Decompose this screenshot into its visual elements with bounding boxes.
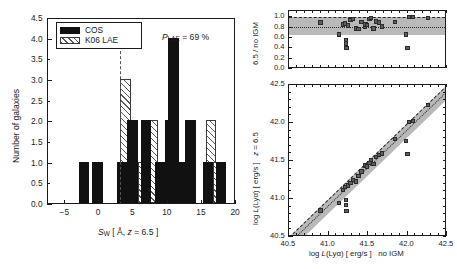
- histogram-xlabel: SW [ Å, z = 6.5 ]: [98, 228, 158, 238]
- ratio-data-point: [405, 46, 409, 50]
- p-lae-subscript: LAE: [168, 35, 180, 42]
- luminosity-xtick-top: [375, 84, 376, 87]
- luminosity-ytick-minor: [288, 206, 291, 207]
- ratio-xtick-top: [391, 10, 392, 13]
- luminosity-data-point: [344, 209, 348, 213]
- luminosity-ytick-major: [288, 84, 293, 85]
- histogram-xtick: [167, 200, 168, 204]
- ratio-xtick-top: [430, 10, 431, 13]
- luminosity-xtick: [335, 233, 336, 236]
- luminosity-ytick-right: [443, 130, 446, 131]
- histogram-yticklabel: 4.5: [31, 14, 43, 22]
- histogram-yticklabel: 3.5: [31, 55, 43, 63]
- luminosity-data-point: [337, 201, 341, 205]
- ratio-yticklabel: 0.4: [274, 43, 285, 51]
- luminosity-xtick-top: [438, 84, 439, 87]
- luminosity-ytick-right: [443, 122, 446, 123]
- ratio-yticklabel: 0.0: [274, 64, 285, 72]
- luminosity-ytick-minor: [288, 213, 291, 214]
- ratio-ytick: [288, 27, 292, 28]
- histogram-yticklabel: 2.0: [31, 117, 43, 125]
- luminosity-xtick-top: [407, 84, 408, 87]
- luminosity-yticklabel: 40.5: [270, 232, 285, 240]
- histogram-yticklabel: 1.0: [31, 159, 43, 167]
- luminosity-data-point: [344, 203, 348, 207]
- luminosity-ytick-minor: [288, 130, 291, 131]
- luminosity-ytick-right: [443, 221, 446, 222]
- luminosity-data-point: [426, 103, 430, 107]
- histogram-ytick: [47, 142, 50, 143]
- histogram-threshold-line: [120, 31, 121, 204]
- luminosity-ytick-minor: [288, 228, 291, 229]
- luminosity-ytick-right: [443, 92, 446, 93]
- ratio-data-point: [356, 27, 360, 31]
- histogram-bar-cos: [185, 120, 195, 203]
- histogram-xticklabel: −5: [60, 208, 69, 216]
- ratio-xtick-top: [414, 10, 415, 13]
- luminosity-data-point: [380, 151, 384, 155]
- luminosity-xtick: [296, 233, 297, 236]
- histogram-ytick: [47, 183, 50, 184]
- luminosity-xtick-top: [383, 84, 384, 87]
- ratio-yticklabel: 0.8: [274, 23, 285, 31]
- ratio-xtick-top: [399, 10, 400, 13]
- ratio-xtick: [430, 65, 431, 68]
- ratio-xtick-top: [375, 10, 376, 13]
- luminosity-ytick-major: [288, 122, 293, 123]
- luminosity-xtick-top: [304, 84, 305, 87]
- histogram-xticklabel: 10: [162, 208, 171, 216]
- luminosity-xtick: [351, 233, 352, 236]
- ratio-data-point: [393, 20, 397, 24]
- luminosity-xtick-top: [446, 84, 447, 87]
- ratio-xtick: [320, 65, 321, 68]
- histogram-xtick: [201, 200, 202, 204]
- luminosity-ytick-minor: [288, 175, 291, 176]
- histogram-ytick: [47, 204, 52, 205]
- luminosity-ytick-minor: [288, 145, 291, 146]
- luminosity-xtick-top: [312, 84, 313, 87]
- ratio-yticklabel: 0.6: [274, 33, 285, 41]
- ratio-xtick: [304, 65, 305, 68]
- luminosity-xtick-top: [422, 84, 423, 87]
- luminosity-xtick: [430, 233, 431, 236]
- luminosity-data-point: [411, 119, 415, 123]
- luminosity-ytick-right: [443, 107, 446, 108]
- luminosity-xticklabel: 41.0: [320, 240, 335, 248]
- luminosity-data-point: [371, 162, 375, 166]
- luminosity-xtick: [375, 233, 376, 236]
- luminosity-data-point: [359, 169, 363, 173]
- ratio-data-point: [346, 23, 350, 27]
- histogram-bar-cos: [155, 162, 165, 203]
- ratio-ytick: [288, 58, 292, 59]
- luminosity-xlabel: log L(Lyα) [ erg/s ] no IGM: [309, 250, 404, 258]
- luminosity-xtick: [383, 233, 384, 236]
- histogram-xticklabel: 5: [130, 208, 135, 216]
- ratio-xtick: [359, 65, 360, 68]
- luminosity-xtick-top: [359, 84, 360, 87]
- ratio-xtick-top: [351, 10, 352, 13]
- luminosity-xtick-top: [367, 84, 368, 87]
- histogram-xticklabel: 15: [196, 208, 205, 216]
- histogram-yticklabel: 1.5: [31, 138, 43, 146]
- luminosity-ytick-right: [443, 168, 446, 169]
- histogram-ytick: [47, 39, 52, 40]
- ratio-xtick: [312, 65, 313, 68]
- luminosity-data-point: [354, 179, 358, 183]
- histogram-bar-cos: [127, 120, 137, 203]
- ratio-xtick-top: [446, 10, 447, 13]
- luminosity-xtick: [422, 233, 423, 236]
- histogram-bar-cos: [79, 162, 89, 203]
- ratio-yticklabel: 1.0: [274, 12, 285, 20]
- ratio-xtick: [407, 65, 408, 68]
- luminosity-ytick-minor: [288, 114, 291, 115]
- luminosity-ylabel: log L(Lyα) [ erg/s ] z = 6.5: [252, 132, 260, 225]
- ratio-ytick: [288, 68, 292, 69]
- p-lae-annotation: PLAE = 69 %: [162, 33, 209, 43]
- luminosity-ytick-right: [443, 213, 446, 214]
- ratio-data-point: [318, 20, 322, 24]
- luminosity-xtick: [414, 233, 415, 236]
- luminosity-xticklabel: 42.5: [439, 240, 454, 248]
- luminosity-ytick-right: [443, 190, 446, 191]
- ratio-xtick-top: [343, 10, 344, 13]
- ratio-xtick-top: [304, 10, 305, 13]
